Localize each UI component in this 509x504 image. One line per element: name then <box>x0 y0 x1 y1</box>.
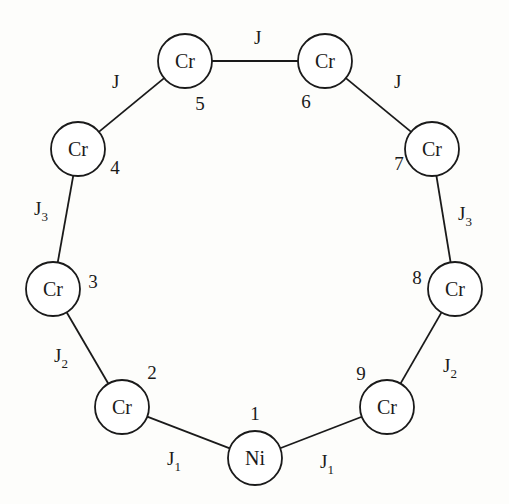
bond-3-4 <box>58 176 74 263</box>
coupling-label: J1 <box>167 448 181 474</box>
element-symbol: Cr <box>315 50 335 72</box>
site-index: 2 <box>147 362 157 383</box>
site-index: 6 <box>301 91 311 112</box>
coupling-label: J <box>254 27 261 48</box>
element-symbol: Cr <box>68 138 88 160</box>
atom-cr-8: Cr <box>428 262 482 316</box>
site-index: 3 <box>88 271 98 292</box>
element-symbol: Cr <box>445 278 465 300</box>
atom-cr-4: Cr <box>51 122 105 176</box>
atom-cr-7: Cr <box>405 122 459 176</box>
atom-cr-6: Cr <box>298 34 352 88</box>
coupling-label: J3 <box>458 203 472 229</box>
coupling-label: J2 <box>443 355 457 381</box>
atom-cr-9: Cr <box>360 380 414 434</box>
element-symbol: Cr <box>112 396 132 418</box>
atom-cr-3: Cr <box>26 262 80 316</box>
site-index: 5 <box>195 93 205 114</box>
element-symbol: Cr <box>377 396 397 418</box>
atom-cr-2: Cr <box>95 380 149 434</box>
atom-ni-1: Ni <box>228 431 282 485</box>
exchange-ring-diagram: J1J2J3JJJJ3J2J1 NiCrCrCrCrCrCrCrCr 12345… <box>0 0 509 504</box>
bond-9-1 <box>280 417 362 449</box>
bond-8-9 <box>400 312 441 383</box>
coupling-label: J <box>112 71 119 92</box>
bond-4-5 <box>99 78 164 132</box>
site-index: 7 <box>394 153 404 174</box>
bond-1-2 <box>147 417 230 449</box>
site-index: 4 <box>110 157 120 178</box>
coupling-label: J3 <box>34 198 48 224</box>
coupling-label: J2 <box>54 345 68 371</box>
bond-7-8 <box>436 176 450 263</box>
coupling-label: J <box>394 71 401 92</box>
atom-cr-5: Cr <box>158 34 212 88</box>
site-index: 8 <box>412 267 422 288</box>
element-symbol: Cr <box>175 50 195 72</box>
element-symbol: Cr <box>422 138 442 160</box>
site-index: 9 <box>356 363 366 384</box>
bond-2-3 <box>67 312 109 383</box>
element-symbol: Cr <box>43 278 63 300</box>
coupling-label: J1 <box>320 451 334 477</box>
element-symbol: Ni <box>245 447 265 469</box>
site-index: 1 <box>250 403 260 424</box>
site-index-layer: 123456789 <box>88 91 422 424</box>
